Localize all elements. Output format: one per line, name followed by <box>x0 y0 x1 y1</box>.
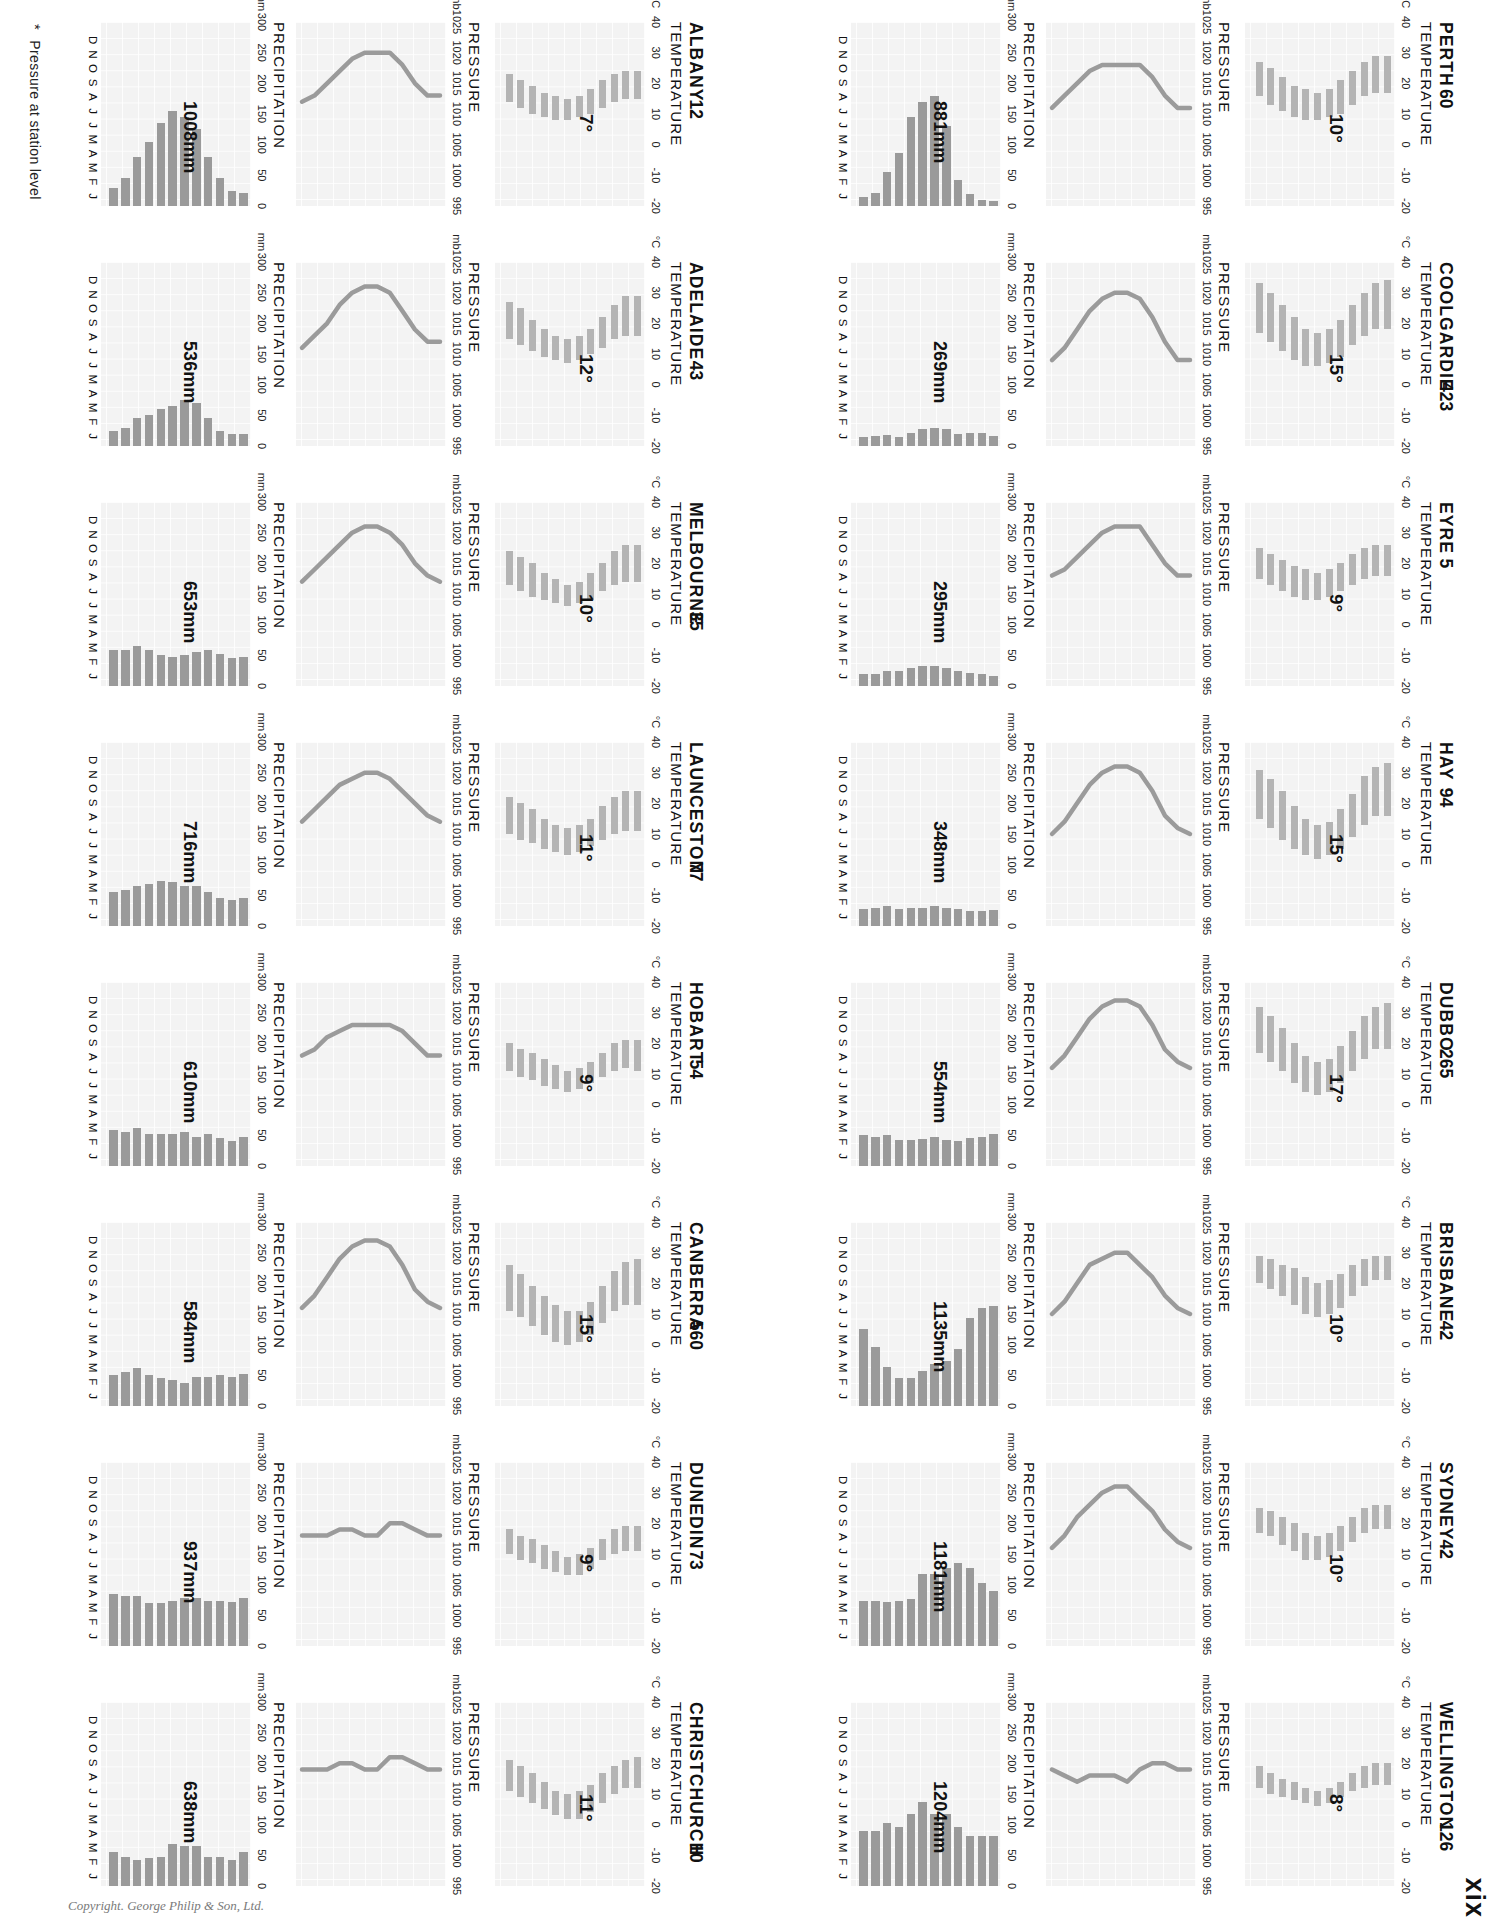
axis-tick: 1015 <box>1201 1031 1213 1055</box>
axis-tick: 20 <box>1400 557 1412 569</box>
precipitation-bar <box>228 900 237 926</box>
axis-unit: °C <box>1400 1196 1412 1208</box>
axis-tick: 1000 <box>1201 1843 1213 1867</box>
precipitation-bar <box>859 197 868 206</box>
axis-tick: 0 <box>1400 862 1412 868</box>
month-label: J <box>87 362 99 368</box>
axis-tick: 10 <box>650 1788 662 1800</box>
station-altitude: 265 <box>1435 1049 1456 1078</box>
axis-scale: mb102510201015101010051000995 <box>1199 1462 1213 1646</box>
precipitation-bar <box>109 431 118 446</box>
axis-scale: °C403020100-10-20 <box>648 262 662 446</box>
pressure-label: PRESSURE <box>1216 502 1233 593</box>
month-label: A <box>837 1293 849 1301</box>
precipitation-bar <box>180 1598 189 1646</box>
axis-tick: 995 <box>451 437 463 455</box>
month-label: N <box>837 1250 849 1258</box>
axis-tick: 200 <box>256 1274 268 1292</box>
temperature-range-bar <box>1279 305 1286 351</box>
temperature-annotation: 8° <box>1325 1794 1347 1812</box>
temperature-range-bar <box>552 1065 559 1090</box>
temperature-plot <box>495 502 645 686</box>
precipitation-bar <box>954 434 963 446</box>
axis-tick: 200 <box>256 1034 268 1052</box>
temperature-range-bar <box>1267 1511 1274 1536</box>
axis-tick: -10 <box>650 887 662 903</box>
axis-tick: 100 <box>1006 855 1018 873</box>
axis-tick: 1000 <box>1201 1603 1213 1627</box>
temperature-range-bar <box>634 71 641 99</box>
axis-tick: -10 <box>650 1127 662 1143</box>
station-panel: LAUNCESTON77TEMPERATURE°C403020100-10-20… <box>18 742 708 972</box>
temperature-range-bar <box>1384 280 1391 329</box>
month-label: A <box>837 390 849 398</box>
axis-tick: 1020 <box>1201 1720 1213 1744</box>
station-altitude: 73 <box>685 1550 706 1569</box>
axis-tick: 1000 <box>1201 1363 1213 1387</box>
precipitation-block: PRECIPITATIONmm300250200150100500269mmJF… <box>835 262 1036 492</box>
axis-tick: 10 <box>650 828 662 840</box>
month-axis: JFMAMJJASOND <box>83 982 99 1166</box>
month-label: J <box>87 1562 99 1568</box>
axis-tick: 100 <box>1006 1815 1018 1833</box>
axis-tick: 1010 <box>451 102 463 126</box>
axis-tick: 0 <box>1400 382 1412 388</box>
axis-tick: -20 <box>1400 1638 1412 1654</box>
precipitation-bar <box>895 671 904 686</box>
axis-tick: 40 <box>650 496 662 508</box>
axis-tick: 40 <box>650 1456 662 1468</box>
pressure-block: PRESSUREmb102510201015101010051000995 <box>290 1702 481 1932</box>
month-label: D <box>837 996 849 1004</box>
precipitation-label: PRECIPITATION <box>271 1222 288 1349</box>
temperature-range-bar <box>541 1059 548 1087</box>
temperature-range-bar <box>506 1760 513 1791</box>
axis-tick: -10 <box>1400 1847 1412 1863</box>
temperature-range-bar <box>552 1551 559 1572</box>
precipitation-bar <box>157 1378 166 1406</box>
precipitation-bar <box>990 1591 999 1646</box>
month-axis: JFMAMJJASOND <box>833 1702 849 1886</box>
month-label: J <box>87 913 99 919</box>
precipitation-bar <box>157 1134 166 1167</box>
temperature-range-bar <box>506 74 513 102</box>
station-header: CANBERRA560TEMPERATURE <box>662 1222 708 1452</box>
precipitation-label: PRECIPITATION <box>1021 742 1038 869</box>
temperature-annotation: 9° <box>575 1074 597 1092</box>
month-label: A <box>87 390 99 398</box>
axis-unit: mm <box>256 0 268 11</box>
station-name: HAY <box>1435 742 1456 781</box>
axis-tick: 995 <box>1201 677 1213 695</box>
station-name: ADELAIDE <box>685 262 706 360</box>
axis-unit: mb <box>1201 1674 1213 1689</box>
month-label: J <box>837 1873 849 1879</box>
axis-tick: -10 <box>650 1607 662 1623</box>
month-label: O <box>87 1264 99 1273</box>
pressure-plot <box>1046 22 1196 206</box>
axis-tick: 300 <box>1006 1213 1018 1231</box>
temperature-range-bar <box>599 80 606 108</box>
temperature-range-bar <box>1291 1523 1298 1551</box>
axis-tick: 1010 <box>451 1542 463 1566</box>
temperature-plot <box>495 1222 645 1406</box>
temperature-range-bar <box>529 1053 536 1081</box>
temperature-range-bar <box>1337 563 1344 591</box>
axis-scale: mm300250200150100500 <box>1004 982 1018 1166</box>
axis-tick: -10 <box>1400 887 1412 903</box>
temperature-range-bar <box>1302 1788 1309 1803</box>
precipitation-bar <box>919 429 928 446</box>
temperature-range-bar <box>1291 1268 1298 1305</box>
month-label: M <box>87 375 99 385</box>
pressure-plot <box>1046 1462 1196 1646</box>
axis-tick: 1000 <box>1201 883 1213 907</box>
temperature-range-bar <box>1314 1283 1321 1317</box>
precipitation-bar <box>883 172 892 206</box>
axis-tick: 1000 <box>1201 643 1213 667</box>
precipitation-bar <box>871 1347 880 1406</box>
precipitation-bar <box>871 1137 880 1166</box>
axis-tick: 0 <box>1006 1403 1018 1409</box>
precipitation-bar <box>990 676 999 686</box>
axis-tick: 200 <box>256 314 268 332</box>
temperature-range-bar <box>529 320 536 351</box>
temperature-range-bar <box>1384 1505 1391 1530</box>
precipitation-annotation: 269mm <box>929 341 950 403</box>
